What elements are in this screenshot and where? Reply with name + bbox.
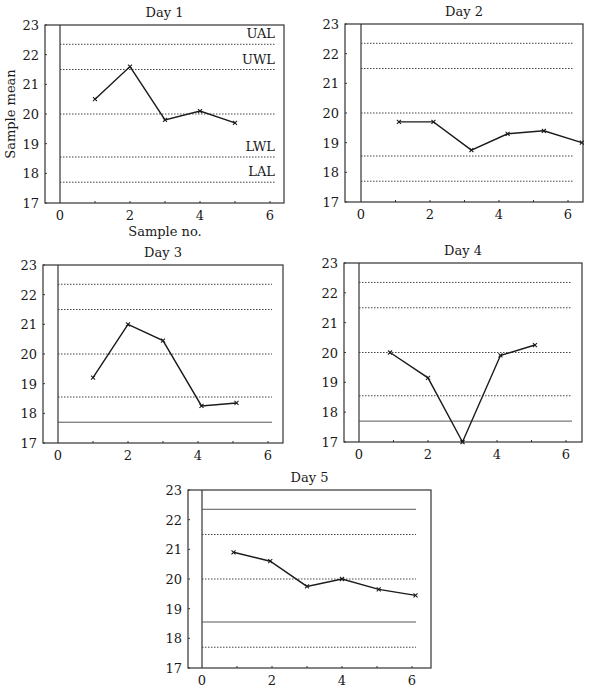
y-tick-label: 23	[322, 17, 339, 32]
chart-title: Day 2	[445, 4, 483, 19]
x-tick-label: 0	[54, 448, 62, 463]
x-tick-label: 0	[198, 673, 206, 688]
limit-label-uwl: UWL	[242, 52, 275, 67]
x-tick-label: 6	[264, 448, 272, 463]
y-tick-label: 19	[22, 137, 39, 152]
y-tick-label: 20	[165, 572, 182, 587]
y-tick-label: 20	[321, 346, 338, 361]
y-tick-label: 18	[22, 166, 39, 181]
x-tick-label: 2	[426, 207, 434, 222]
y-tick-label: 22	[321, 286, 338, 301]
chart-title: Day 3	[144, 245, 182, 260]
y-tick-label: 22	[22, 48, 39, 63]
x-tick-label: 2	[268, 673, 276, 688]
chart-panel-day-1: Day 1171819202122230246UALUWLLWLLALSampl…	[3, 5, 284, 239]
x-tick-label: 0	[357, 207, 365, 222]
chart-panel-day-2: Day 2171819202122230246	[322, 4, 583, 222]
y-tick-label: 20	[20, 347, 37, 362]
x-tick-label: 4	[338, 673, 346, 688]
y-tick-label: 19	[322, 136, 339, 151]
x-tick-label: 0	[355, 447, 363, 462]
y-tick-label: 21	[20, 317, 37, 332]
x-tick-label: 2	[124, 448, 132, 463]
chart-title: Day 1	[146, 5, 184, 20]
x-tick-label: 4	[493, 447, 501, 462]
data-point-marker	[93, 97, 97, 101]
data-series-line	[390, 345, 535, 442]
data-series-line	[93, 324, 237, 406]
y-tick-label: 22	[165, 513, 182, 528]
y-tick-label: 17	[321, 435, 338, 450]
y-tick-label: 21	[22, 77, 39, 92]
y-tick-label: 18	[165, 631, 182, 646]
y-tick-label: 23	[20, 258, 37, 273]
y-axis-label: Sample mean	[3, 69, 18, 159]
y-tick-label: 17	[322, 195, 339, 210]
y-tick-label: 22	[322, 47, 339, 62]
y-tick-label: 23	[321, 256, 338, 271]
x-tick-label: 2	[126, 208, 134, 223]
limit-label-lal: LAL	[248, 164, 275, 179]
data-series-line	[399, 122, 582, 150]
y-tick-label: 17	[22, 196, 39, 211]
x-tick-label: 6	[408, 673, 416, 688]
limit-label-ual: UAL	[246, 26, 275, 41]
data-point-marker	[388, 351, 392, 355]
data-point-marker	[128, 65, 132, 69]
y-tick-label: 22	[20, 288, 37, 303]
chart-title: Day 5	[291, 470, 329, 485]
x-tick-label: 2	[424, 447, 432, 462]
y-tick-label: 21	[321, 316, 338, 331]
control-charts-figure: Day 1171819202122230246UALUWLLWLLALSampl…	[0, 0, 592, 692]
y-tick-label: 21	[165, 542, 182, 557]
y-tick-label: 18	[321, 405, 338, 420]
y-tick-label: 17	[20, 436, 37, 451]
x-tick-label: 4	[196, 208, 204, 223]
y-tick-label: 17	[165, 661, 182, 676]
x-tick-label: 4	[194, 448, 202, 463]
x-tick-label: 4	[495, 207, 503, 222]
chart-panel-day-5: Day 5171819202122230246	[165, 470, 431, 688]
x-tick-label: 6	[266, 208, 274, 223]
y-tick-label: 18	[322, 165, 339, 180]
y-tick-label: 20	[22, 107, 39, 122]
chart-panel-day-3: Day 3171819202122230246	[20, 245, 283, 463]
y-tick-label: 23	[165, 483, 182, 498]
y-tick-label: 23	[22, 18, 39, 33]
x-tick-label: 0	[56, 208, 64, 223]
y-tick-label: 19	[20, 377, 37, 392]
y-tick-label: 19	[165, 602, 182, 617]
limit-label-lwl: LWL	[246, 139, 276, 154]
x-tick-label: 6	[564, 207, 572, 222]
y-tick-label: 21	[322, 76, 339, 91]
y-tick-label: 20	[322, 106, 339, 121]
x-tick-label: 6	[562, 447, 570, 462]
y-tick-label: 19	[321, 375, 338, 390]
data-point-marker	[91, 376, 95, 380]
x-axis-label: Sample no.	[128, 224, 201, 239]
chart-title: Day 4	[444, 243, 482, 258]
data-series-line	[234, 552, 416, 595]
y-tick-label: 18	[20, 406, 37, 421]
chart-panel-day-4: Day 4171819202122230246	[321, 243, 582, 462]
